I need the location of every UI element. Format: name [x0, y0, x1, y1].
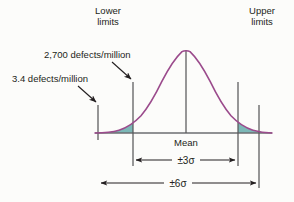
normal-distribution-curve — [95, 51, 272, 133]
dimension-6-sigma-label: ±6σ — [169, 178, 187, 189]
lower-limits-label-line1: Lower — [95, 5, 121, 16]
upper-limits-label-line1: Upper — [249, 5, 275, 16]
mean-label: Mean — [174, 137, 198, 148]
dimension-6-sigma: ±6σ — [101, 176, 256, 190]
dimension-3-sigma-label: ±3σ — [177, 155, 195, 166]
distribution-chart-canvas: Lower limits Upper limits 2,700 defects/… — [0, 0, 294, 202]
callout-2700-leader-line — [112, 62, 131, 79]
callout-34-defects-label: 3.4 defects/million — [12, 73, 88, 84]
six-sigma-distribution-figure: Lower limits Upper limits 2,700 defects/… — [0, 0, 294, 202]
callout-2700-defects-label: 2,700 defects/million — [44, 49, 131, 60]
lower-limits-label-line2: limits — [97, 16, 119, 27]
callout-34-leader-line — [78, 86, 96, 102]
shaded-tail-regions — [95, 50, 272, 133]
dimension-3-sigma: ±3σ — [136, 153, 235, 167]
upper-limits-label-line2: limits — [251, 16, 273, 27]
